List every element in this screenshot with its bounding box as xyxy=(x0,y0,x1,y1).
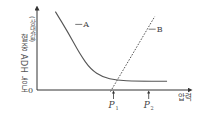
x-axis-label: 압력 xyxy=(178,93,192,102)
x-tick-label-2: P xyxy=(143,100,151,110)
series-layer xyxy=(55,12,167,92)
annotation-label-b: B xyxy=(157,25,163,34)
series-line-b xyxy=(110,16,154,91)
annotation-label-a: A xyxy=(82,20,89,29)
series-line-a xyxy=(55,12,167,82)
x-tick-subscript-2: 2 xyxy=(151,105,154,111)
x-tick-label-1: P xyxy=(107,100,115,110)
ticks-layer: P1P2 xyxy=(107,92,153,111)
chart: 0 압력 P1P2 AB xyxy=(0,0,204,118)
annotation-layer: AB xyxy=(75,20,162,34)
x-tick-subscript-1: 1 xyxy=(115,105,118,111)
origin-label: 0 xyxy=(28,86,33,95)
